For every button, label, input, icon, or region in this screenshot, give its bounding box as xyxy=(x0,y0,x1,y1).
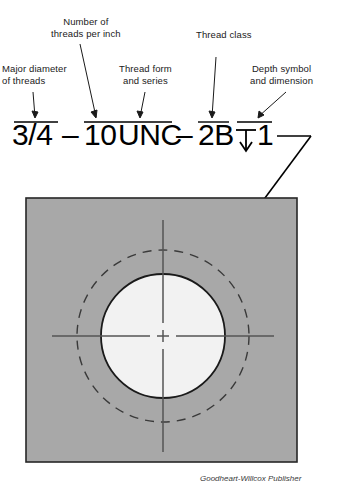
designation-dash-1: – xyxy=(62,118,78,152)
arrowhead-thread-class xyxy=(209,111,215,118)
arrowhead-thread-form xyxy=(137,111,143,118)
arrowhead-threads-per-inch xyxy=(91,110,97,118)
callout-label-thread-form: Thread form and series xyxy=(119,63,172,86)
callout-label-major-diameter: Major diameter of threads xyxy=(2,63,67,86)
callout-label-threads-per-inch: Number of threads per inch xyxy=(51,16,121,39)
thread-note-figure: Major diameter of threads Number of thre… xyxy=(0,0,338,493)
designation-dash-2: – xyxy=(176,118,192,152)
callout-label-depth-symbol: Depth symbol and dimension xyxy=(250,63,313,86)
publisher-credit: Goodheart-Willcox Publisher xyxy=(200,474,301,483)
leader-threads-per-inch xyxy=(80,44,96,117)
designation-major-diameter: 3/4 xyxy=(12,118,53,152)
callout-arrowheads xyxy=(32,110,264,118)
designation-threads-per-inch: 10 xyxy=(84,118,117,152)
depth-symbol-glyph xyxy=(236,130,256,151)
callout-label-thread-class: Thread class xyxy=(196,29,252,41)
designation-thread-form-series: UNC xyxy=(118,118,182,152)
designation-thread-class: 2B xyxy=(198,118,234,152)
leader-thread-class xyxy=(212,57,216,117)
designation-depth-value: 1 xyxy=(257,118,273,152)
arrowhead-major-diameter xyxy=(32,111,38,118)
